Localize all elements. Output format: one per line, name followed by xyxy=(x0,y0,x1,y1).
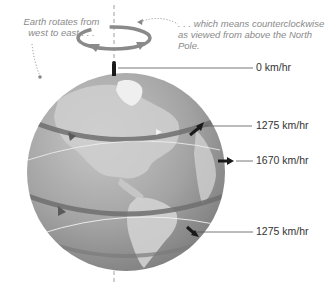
globe xyxy=(27,73,225,271)
velocity-arrow-pole xyxy=(112,61,116,76)
speed-label-south: 1275 km/hr xyxy=(256,225,309,237)
caption-west-to-east: Earth rotates from west to east . . . xyxy=(14,16,109,38)
speed-label-north: 1275 km/hr xyxy=(256,119,309,131)
caption-counterclockwise: . . . which means counterclockwise as vi… xyxy=(178,18,328,51)
speed-label-equator: 1670 km/hr xyxy=(256,154,309,166)
left-caption-leader xyxy=(32,44,40,76)
right-caption-leader xyxy=(140,18,178,24)
speed-label-pole: 0 km/hr xyxy=(256,61,291,73)
